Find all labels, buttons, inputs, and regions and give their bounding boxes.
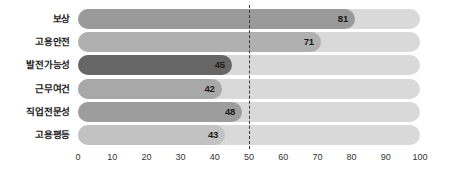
bar-value-label: 81	[338, 14, 348, 24]
x-axis-tick-label: 30	[176, 150, 186, 164]
bar-value-label: 42	[204, 84, 214, 94]
bar-value-label: 43	[208, 131, 218, 141]
bar-value-label: 48	[225, 107, 235, 117]
bar-fill: 45	[78, 55, 232, 75]
x-axis-tick-label: 70	[312, 150, 322, 164]
bar-value-label: 45	[215, 61, 225, 71]
x-axis-tick-label: 100	[412, 150, 427, 164]
category-axis-labels: 보상고용안전발전가능성근무여건직업전문성고용평등	[0, 7, 70, 147]
x-axis-tick-label: 10	[107, 150, 117, 164]
x-axis-tick-label: 40	[210, 150, 220, 164]
x-axis-tick-label: 0	[75, 150, 80, 164]
reference-line-50	[249, 5, 250, 149]
bar-value-label: 71	[304, 37, 314, 47]
x-axis-tick-label: 90	[381, 150, 391, 164]
category-label: 직업전문성	[0, 102, 70, 122]
bar-fill: 43	[78, 125, 225, 145]
category-label: 보상	[0, 9, 70, 29]
category-label: 고용평등	[0, 125, 70, 145]
category-label: 발전가능성	[0, 55, 70, 75]
bar-fill: 48	[78, 102, 242, 122]
bar-chart: 보상고용안전발전가능성근무여건직업전문성고용평등 817145424843 01…	[0, 0, 450, 173]
bar-fill: 71	[78, 32, 321, 52]
x-axis-tick-label: 20	[141, 150, 151, 164]
category-label: 근무여건	[0, 79, 70, 99]
x-axis: 0102030405060708090100	[78, 150, 420, 166]
bar-fill: 81	[78, 9, 355, 29]
plot-area: 817145424843	[78, 7, 420, 147]
x-axis-tick-label: 80	[347, 150, 357, 164]
category-label: 고용안전	[0, 32, 70, 52]
x-axis-tick-label: 60	[278, 150, 288, 164]
bar-fill: 42	[78, 79, 222, 99]
x-axis-tick-label: 50	[244, 150, 254, 164]
